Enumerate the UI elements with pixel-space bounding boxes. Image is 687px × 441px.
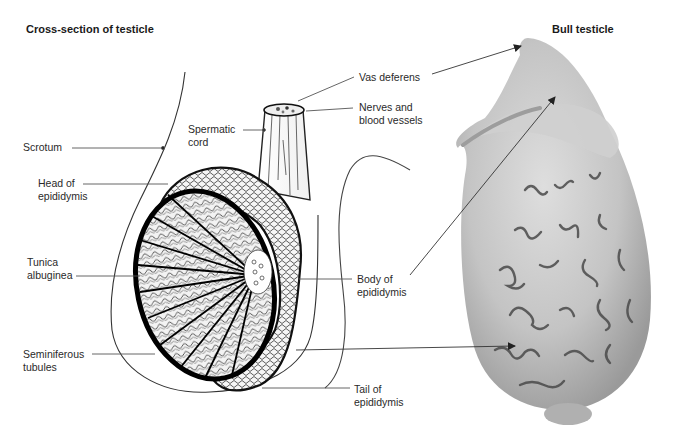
label-tail-line1: Tail of (354, 383, 404, 396)
label-vas-deferens: Vas deferens (359, 71, 420, 84)
label-nerves-line1: Nerves and (359, 101, 423, 114)
right-title: Bull testicle (552, 23, 614, 35)
label-tunica-line2: albuginea (27, 269, 73, 282)
label-scrotum: Scrotum (23, 141, 62, 154)
label-seminiferous-tubules: Seminiferous tubules (23, 348, 84, 374)
bull-testicle-photo (456, 38, 651, 425)
diagram-canvas (0, 0, 687, 441)
label-spermatic-cord: Spermatic cord (188, 123, 235, 149)
label-nerves-blood-vessels: Nerves and blood vessels (359, 101, 423, 127)
label-spermatic-cord-line1: Spermatic (188, 123, 235, 136)
label-tunica-albuginea: Tunica albuginea (27, 256, 73, 282)
label-head-line1: Head of (38, 177, 88, 190)
anatomy-figure: Cross-section of testicle Bull testicle … (0, 0, 687, 441)
label-tunica-line1: Tunica (27, 256, 73, 269)
left-title: Cross-section of testicle (26, 23, 154, 35)
label-scrotum-text: Scrotum (23, 141, 62, 154)
label-head-of-epididymis: Head of epididymis (38, 177, 88, 203)
label-body-of-epididymis: Body of epididymis (357, 273, 407, 299)
label-vas-deferens-text: Vas deferens (359, 71, 420, 84)
label-tail-line2: epididymis (354, 396, 404, 409)
scrotum-outline-right (325, 156, 410, 388)
label-tail-of-epididymis: Tail of epididymis (354, 383, 404, 409)
label-body-line2: epididymis (357, 286, 407, 299)
label-seminiferous-line2: tubules (23, 361, 84, 374)
label-head-line2: epididymis (38, 190, 88, 203)
label-body-line1: Body of (357, 273, 407, 286)
label-nerves-line2: blood vessels (359, 114, 423, 127)
label-seminiferous-line1: Seminiferous (23, 348, 84, 361)
label-spermatic-cord-line2: cord (188, 136, 235, 149)
